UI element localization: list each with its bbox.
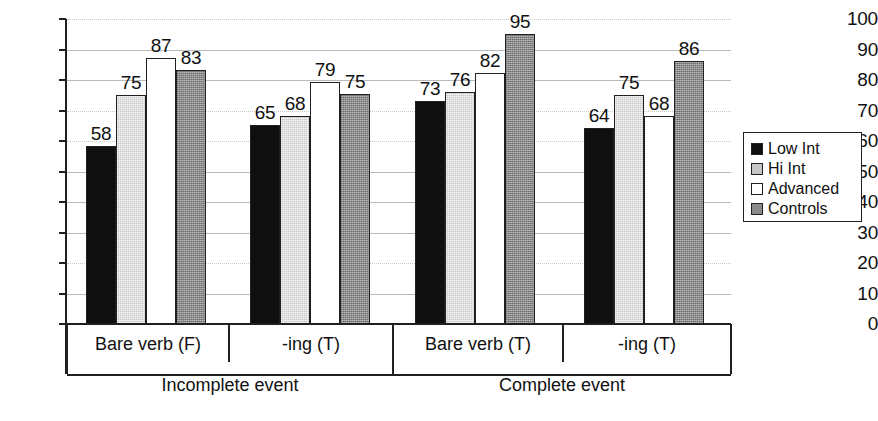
bar-value-82: 82: [463, 51, 517, 70]
category-label-ing-t-1: -ing (T): [230, 334, 392, 354]
bar-value-68: 68: [632, 94, 686, 113]
legend-label-advanced: Advanced: [768, 181, 839, 197]
bar-controls-ing-t-incomplete[interactable]: [340, 94, 370, 324]
bar-value-83: 83: [164, 48, 218, 67]
bar-hi-int-ing-t-complete[interactable]: [614, 95, 644, 324]
bar-hi-int-ing-t-incomplete[interactable]: [280, 116, 310, 324]
bar-low-int-ing-t-incomplete[interactable]: [250, 125, 280, 324]
legend-swatch-icon-low-int: [751, 143, 763, 155]
legend-item-controls[interactable]: Controls: [751, 199, 861, 218]
bar-value-76: 76: [433, 70, 487, 89]
bar-value-58: 58: [74, 124, 128, 143]
bar-low-int-bare-verb-t[interactable]: [415, 101, 445, 324]
bar-value-68: 68: [268, 94, 322, 113]
bar-value-95: 95: [493, 12, 547, 31]
category-label-bare-verb-t: Bare verb (T): [394, 334, 562, 354]
legend-label-controls: Controls: [768, 201, 828, 217]
bar-low-int-ing-t-complete[interactable]: [584, 128, 614, 324]
legend-item-advanced[interactable]: Advanced: [751, 179, 861, 198]
bar-advanced-bare-verb-f[interactable]: [146, 58, 176, 324]
bar-advanced-ing-t-incomplete[interactable]: [310, 82, 340, 324]
bar-value-64: 64: [572, 106, 626, 125]
bar-value-86: 86: [662, 39, 716, 58]
legend-swatch-icon-advanced: [751, 183, 763, 195]
group-label-incomplete-event: Incomplete event: [68, 375, 392, 395]
bar-controls-bare-verb-f[interactable]: [176, 70, 206, 324]
bar-advanced-bare-verb-t[interactable]: [475, 73, 505, 324]
bar-chart: 100 90 80 70 60 50 40 30 20 10 0 58 75 8…: [0, 0, 878, 421]
legend-label-hi-int: Hi Int: [768, 161, 805, 177]
legend: Low Int Hi Int Advanced Controls: [743, 132, 862, 222]
group-label-complete-event: Complete event: [394, 375, 730, 395]
bar-value-75: 75: [328, 72, 382, 91]
category-label-ing-t-2: -ing (T): [564, 334, 730, 354]
bar-advanced-ing-t-complete[interactable]: [644, 116, 674, 324]
legend-swatch-icon-hi-int: [751, 163, 763, 175]
bar-controls-bare-verb-t[interactable]: [505, 34, 535, 324]
legend-item-low-int[interactable]: Low Int: [751, 139, 861, 158]
bar-low-int-bare-verb-f[interactable]: [86, 146, 116, 324]
legend-item-hi-int[interactable]: Hi Int: [751, 159, 861, 178]
bar-value-75: 75: [602, 73, 656, 92]
legend-label-low-int: Low Int: [768, 141, 820, 157]
bar-hi-int-bare-verb-t[interactable]: [445, 92, 475, 324]
category-label-bare-verb-f: Bare verb (F): [68, 334, 228, 354]
legend-swatch-icon-controls: [751, 203, 763, 215]
bar-value-75: 75: [104, 73, 158, 92]
category-divider-right: [730, 324, 732, 374]
